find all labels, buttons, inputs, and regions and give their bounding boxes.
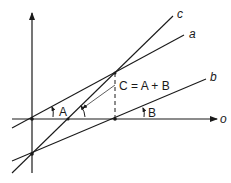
- angle-b-arc: [143, 108, 144, 117]
- line-c-label: c: [177, 7, 183, 21]
- diagram-canvas: c a b o A B C = A + B: [0, 0, 231, 183]
- line-c: [12, 16, 173, 173]
- line-a-label: a: [189, 27, 196, 41]
- line-b-label: b: [210, 70, 217, 84]
- equation-label: C = A + B: [119, 79, 170, 93]
- intersect-b-c: [30, 152, 34, 156]
- origin-point: [30, 117, 34, 121]
- angle-a-label: A: [59, 105, 67, 119]
- intersect-a-c: [114, 72, 117, 75]
- axis-o-label: o: [220, 112, 227, 126]
- line-b: [12, 79, 206, 161]
- angle-a-arc: [52, 107, 53, 117]
- angle-b-label: B: [148, 106, 156, 120]
- intersect-b-o: [113, 117, 117, 121]
- angle-addition-diagram: c a b o A B C = A + B: [0, 0, 231, 183]
